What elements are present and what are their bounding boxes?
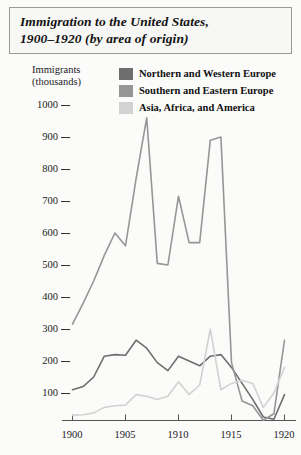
chart-series-layer (73, 118, 285, 420)
x-axis-ticks (73, 415, 285, 421)
chart-plot-area (0, 0, 301, 455)
chart-figure: Immigration to the United States, 1900–1… (0, 0, 301, 455)
series-line (73, 118, 285, 420)
series-line (73, 329, 285, 415)
